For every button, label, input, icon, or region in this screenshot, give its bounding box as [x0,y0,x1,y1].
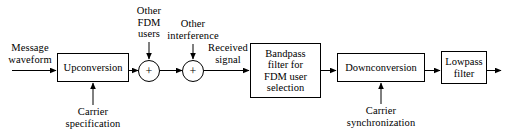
label-carrier-synchronization: Carrier synchronization [328,105,434,128]
label-message-waveform: Message waveform [2,42,58,65]
label-other-interference: Other interference [157,18,229,41]
label-received-signal: Received signal [202,42,254,65]
block-downconversion-label: Downconversion [345,62,417,73]
block-bandpass-filter-label: Bandpass filter for FDM user selection [264,48,307,93]
adder-1[interactable]: + [138,60,160,82]
block-upconversion-label: Upconversion [64,62,123,73]
adder-2[interactable]: + [182,60,204,82]
block-lowpass-filter[interactable]: Lowpass filter [441,51,487,84]
block-downconversion[interactable]: Downconversion [337,53,425,82]
adder-1-symbol: + [146,65,153,77]
adder-2-symbol: + [190,65,197,77]
block-lowpass-filter-label: Lowpass filter [445,56,482,79]
block-diagram: Upconversion Bandpass filter for FDM use… [0,0,507,134]
label-carrier-specification: Carrier specification [51,106,135,129]
block-upconversion[interactable]: Upconversion [57,53,129,82]
block-bandpass-filter[interactable]: Bandpass filter for FDM user selection [250,43,321,98]
